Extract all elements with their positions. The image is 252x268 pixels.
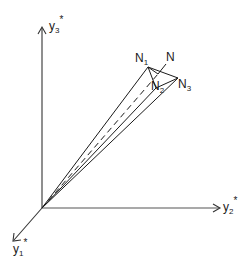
axes <box>13 27 220 241</box>
edge-origin-n2 <box>42 88 156 208</box>
y2-label: y2* <box>223 195 237 216</box>
cone-diagram: y3* y2* y1* N1 N N2 N3 <box>0 0 252 268</box>
y1-axis <box>14 208 42 240</box>
n-label: N <box>166 50 175 64</box>
edge-origin-n3 <box>42 78 178 208</box>
y3-label: y3* <box>49 14 63 35</box>
dashed-line-origin-n <box>42 74 158 208</box>
edge-origin-n1 <box>42 67 148 208</box>
n3-label: N3 <box>178 77 192 93</box>
n1-label: N1 <box>135 51 149 67</box>
n2-label: N2 <box>151 79 165 95</box>
